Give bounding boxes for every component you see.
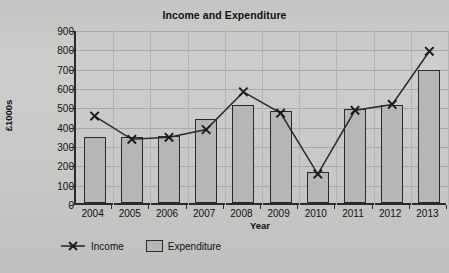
y-tick-label: 700 [14,64,74,75]
chart-page: Income and Expenditure £1000s 9008007006… [0,0,449,273]
x-axis-label: Year [74,220,446,231]
y-tick-label: 500 [14,103,74,114]
income-line-path [95,51,430,174]
legend-item-income: Income [60,240,124,252]
y-tick-label: 100 [14,180,74,191]
x-tick-mark [446,205,447,209]
plot-area [74,31,446,205]
legend-label-income: Income [91,241,124,252]
y-tick-label: 800 [14,45,74,56]
y-tick-label: 600 [14,84,74,95]
x-marker-icon [425,47,433,55]
x-marker-icon [90,112,98,120]
x-marker-icon [239,88,247,96]
y-tick-label: 0 [14,200,74,211]
page-bottom-cropped-text [0,265,449,273]
y-tick-label: 900 [14,26,74,37]
y-tick-label: 300 [14,142,74,153]
line-marker-icon [60,240,86,252]
x-marker-icon [276,109,284,117]
y-tick-label: 400 [14,122,74,133]
bar-swatch-icon [146,240,163,252]
y-tick-mark [70,205,74,206]
chart-legend: Income Expenditure [60,240,221,252]
x-tick-label: 2013 [404,208,449,219]
legend-item-expenditure: Expenditure [146,240,221,252]
x-marker-icon [314,170,322,178]
line-series-income [76,31,448,205]
legend-label-expenditure: Expenditure [168,241,221,252]
y-tick-label: 200 [14,161,74,172]
